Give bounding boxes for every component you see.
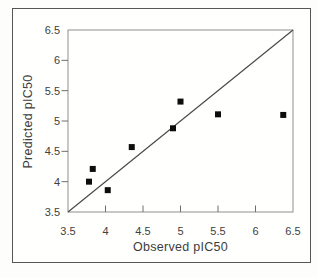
x-tick-label: 6.5 [285, 225, 300, 237]
x-tick-label: 4 [102, 225, 108, 237]
y-tick-label: 3.5 [45, 206, 60, 218]
x-tick-label: 5.5 [210, 225, 225, 237]
x-tick-label: 6 [252, 225, 258, 237]
x-tick-label: 5 [177, 225, 183, 237]
data-point [178, 99, 184, 105]
y-axis-title: Predicted pIC50 [21, 32, 36, 212]
data-point [129, 144, 135, 150]
figure-stage: 3.544.555.566.53.544.555.566.5 Predicted… [0, 0, 317, 278]
y-tick-label: 6 [54, 54, 60, 66]
data-point [280, 112, 286, 118]
data-point [90, 166, 96, 172]
scatter-plot: 3.544.555.566.53.544.555.566.5 [0, 0, 317, 278]
y-tick-label: 5.5 [45, 85, 60, 97]
data-point [170, 125, 176, 131]
x-axis-title: Observed pIC50 [68, 240, 293, 255]
data-point [215, 111, 221, 117]
data-point [86, 179, 92, 185]
x-tick-label: 3.5 [60, 225, 75, 237]
data-point [105, 187, 111, 193]
identity-line [68, 30, 293, 212]
y-tick-label: 4.5 [45, 145, 60, 157]
x-tick-label: 4.5 [135, 225, 150, 237]
y-tick-label: 5 [54, 115, 60, 127]
y-tick-label: 4 [54, 176, 60, 188]
y-tick-label: 6.5 [45, 24, 60, 36]
